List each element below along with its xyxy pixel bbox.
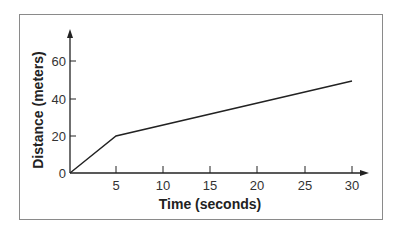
x-axis-arrow-icon	[360, 170, 369, 176]
x-axis-title: Time (seconds)	[159, 196, 261, 212]
svg-text:10: 10	[156, 178, 170, 193]
svg-text:15: 15	[203, 178, 217, 193]
distance-line	[70, 81, 352, 173]
y-ticks	[70, 61, 76, 136]
svg-text:5: 5	[112, 178, 119, 193]
svg-text:30: 30	[345, 178, 359, 193]
svg-text:20: 20	[52, 129, 66, 144]
distance-time-chart: 0 20 40 60 5 10 15 20 25 30 Time (second…	[0, 0, 401, 233]
svg-text:25: 25	[298, 178, 312, 193]
y-tick-labels: 0 20 40 60	[52, 54, 66, 181]
svg-text:40: 40	[52, 92, 66, 107]
x-tick-labels: 5 10 15 20 25 30	[112, 178, 359, 193]
svg-text:20: 20	[250, 178, 264, 193]
svg-text:0: 0	[59, 166, 66, 181]
svg-text:60: 60	[52, 54, 66, 69]
y-axis-title: Distance (meters)	[30, 51, 46, 169]
y-axis-arrow-icon	[67, 29, 73, 38]
x-ticks	[116, 166, 352, 173]
